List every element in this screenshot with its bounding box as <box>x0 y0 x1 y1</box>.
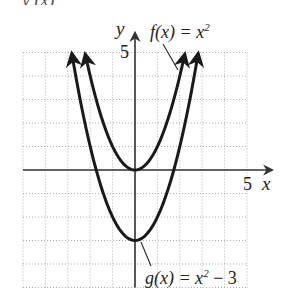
x-axis-label: x <box>261 173 271 194</box>
y-tick-label-5: 5 <box>120 42 129 62</box>
clipped-top-text: y (x) <box>22 0 54 5</box>
f-leader-line <box>163 44 178 70</box>
g-leader-line <box>141 242 151 266</box>
f-label: f(x) = x2 <box>150 21 210 43</box>
g-label: g(x) = x2 − 3 <box>145 267 237 289</box>
x-tick-label-5: 5 <box>243 174 252 194</box>
graph-figure: y (x) y55xf(x) = x2g(x) = x2 − 3 <box>0 0 285 293</box>
plot-area: y55xf(x) = x2g(x) = x2 − 3 <box>0 0 285 293</box>
labels: y55xf(x) = x2g(x) = x2 − 3 <box>114 18 271 289</box>
y-axis-label: y <box>114 18 125 39</box>
axes <box>23 33 272 288</box>
